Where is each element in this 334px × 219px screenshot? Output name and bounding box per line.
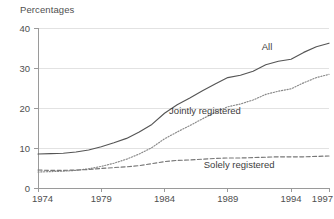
series-label: All xyxy=(262,41,273,52)
x-tick-label: 1997 xyxy=(312,193,333,204)
series-annotations: AllJointly registeredSolely registered xyxy=(169,41,274,170)
x-tick-label: 1979 xyxy=(91,193,112,204)
x-tick-label: 1974 xyxy=(32,193,53,204)
series-label: Solely registered xyxy=(204,159,275,170)
y-tick-label: 0 xyxy=(25,183,30,194)
series-line xyxy=(38,43,329,154)
y-tick-label: 30 xyxy=(19,63,30,74)
chart-container: Percentages 010203040 197419791984198919… xyxy=(0,0,334,219)
y-axis-ticks: 010203040 xyxy=(19,23,38,194)
series-label: Jointly registered xyxy=(169,105,241,116)
line-chart-plot: 010203040 197419791984198919941997 AllJo… xyxy=(0,0,334,219)
series-line xyxy=(38,74,329,172)
x-tick-label: 1994 xyxy=(280,193,301,204)
x-axis-ticks: 197419791984198919941997 xyxy=(32,188,333,204)
y-tick-label: 40 xyxy=(19,23,30,34)
y-tick-label: 20 xyxy=(19,103,30,114)
x-tick-label: 1984 xyxy=(154,193,175,204)
series-line xyxy=(38,156,329,170)
y-tick-label: 10 xyxy=(19,143,30,154)
x-tick-label: 1989 xyxy=(217,193,238,204)
footnote-text xyxy=(22,211,322,219)
